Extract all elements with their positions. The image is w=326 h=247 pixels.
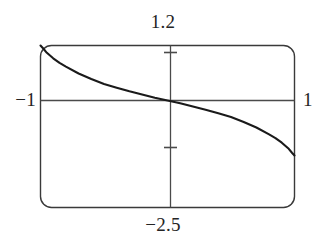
axis-label-top: 1.2 bbox=[0, 12, 326, 31]
plot-area bbox=[0, 0, 326, 247]
axis-label-left: −1 bbox=[10, 90, 36, 109]
axis-label-right: 1 bbox=[303, 90, 323, 109]
axis-label-bottom: −2.5 bbox=[0, 215, 326, 234]
chart-figure: 1.2 −2.5 −1 1 bbox=[0, 0, 326, 247]
